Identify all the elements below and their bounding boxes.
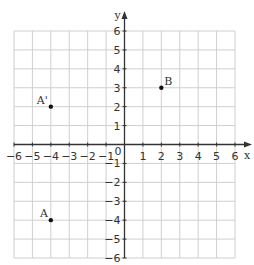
x-tick-label: 5 xyxy=(213,150,220,163)
y-axis-arrow-icon xyxy=(122,11,128,19)
point-A-prime xyxy=(49,104,53,108)
x-tick-label: −2 xyxy=(80,150,96,163)
point-A xyxy=(49,218,53,222)
origin-label: 0 xyxy=(115,145,122,158)
y-tick-label: 2 xyxy=(114,101,121,114)
y-tick-label: −6 xyxy=(104,252,120,265)
y-tick-label: −1 xyxy=(104,157,120,170)
y-tick-label: −5 xyxy=(104,233,120,246)
y-tick-label: 5 xyxy=(114,44,121,57)
x-tick-label: −4 xyxy=(43,150,59,163)
x-tick-label: 1 xyxy=(139,150,146,163)
x-tick-label: 2 xyxy=(158,150,165,163)
y-tick-label: 3 xyxy=(114,82,121,95)
x-tick-label: 3 xyxy=(176,150,183,163)
y-tick-label: 4 xyxy=(114,63,121,76)
x-tick-label: −5 xyxy=(24,150,40,163)
point-B xyxy=(159,86,163,90)
x-tick-label: −3 xyxy=(61,150,77,163)
y-tick-label: 1 xyxy=(114,120,121,133)
x-tick-label: 6 xyxy=(232,150,239,163)
x-tick-label: −6 xyxy=(6,150,22,163)
x-axis-label: x xyxy=(244,149,251,162)
x-tick-label: 4 xyxy=(195,150,202,163)
point-label: A' xyxy=(36,94,48,107)
y-tick-label: 6 xyxy=(114,25,121,38)
y-tick-label: −2 xyxy=(104,176,120,189)
y-tick-label: −3 xyxy=(104,195,120,208)
x-axis-arrow-icon xyxy=(244,142,252,148)
point-label: B xyxy=(164,75,172,88)
y-tick-label: −4 xyxy=(104,214,120,227)
y-axis-label: y xyxy=(114,9,122,22)
point-label: A xyxy=(39,207,49,220)
coordinate-plane: xy−6−5−4−3−2−1123456−6−5−4−3−2−11234560A… xyxy=(0,0,254,265)
